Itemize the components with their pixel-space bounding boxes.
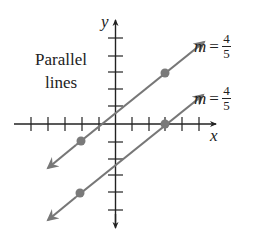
lower-parallel-line: [48, 95, 203, 220]
denominator: 5: [223, 48, 230, 60]
point-marker: [77, 137, 86, 146]
slope-fraction: 4 5: [222, 85, 231, 112]
equals-sign: =: [209, 89, 219, 109]
diagram-caption: Parallel lines: [24, 48, 98, 94]
slope-variable: m: [194, 89, 206, 109]
equals-sign: =: [209, 37, 219, 57]
caption-line-2: lines: [24, 71, 98, 94]
numerator: 4: [223, 85, 230, 97]
y-axis-label: y: [101, 12, 109, 32]
x-axis-label: x: [210, 126, 218, 146]
denominator: 5: [223, 100, 230, 112]
point-marker: [76, 189, 85, 198]
numerator: 4: [223, 33, 230, 45]
lower-slope-label: m = 4 5: [194, 85, 231, 112]
point-marker: [161, 69, 170, 78]
upper-slope-label: m = 4 5: [194, 33, 231, 60]
point-marker: [161, 120, 170, 129]
caption-line-1: Parallel: [24, 48, 98, 71]
slope-fraction: 4 5: [222, 33, 231, 60]
slope-variable: m: [194, 37, 206, 57]
